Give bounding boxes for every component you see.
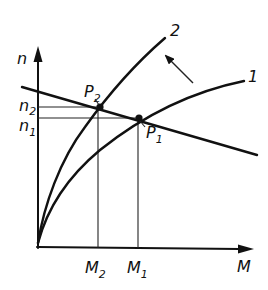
point-p1 — [135, 114, 142, 121]
curve-1-label: 1 — [248, 67, 258, 86]
curve-1 — [38, 81, 244, 243]
m1-tick-label: M1 — [127, 258, 148, 281]
y-axis-arrowhead — [34, 46, 43, 62]
x-axis-label: M — [237, 257, 251, 276]
x-axis-arrowhead — [238, 245, 254, 254]
p2-label: P2 — [84, 82, 101, 105]
y-axis-label: n — [17, 49, 27, 68]
n1-tick-label: n1 — [19, 116, 36, 139]
operating-point-diagram: n M P2 P1 2 1 n2 n1 M2 M1 — [0, 0, 268, 290]
n2-tick-label: n2 — [19, 96, 36, 118]
m2-tick-label: M2 — [85, 258, 106, 281]
shift-arrow-icon — [166, 56, 193, 83]
curve-2-label: 2 — [170, 21, 180, 40]
